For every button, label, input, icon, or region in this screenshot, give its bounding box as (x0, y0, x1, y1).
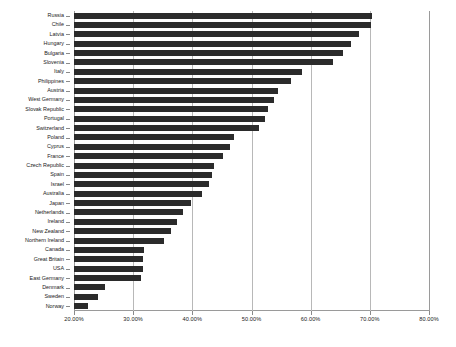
bar-sweden (74, 294, 98, 300)
bar-row (74, 133, 429, 143)
y-label-spain: Spain (50, 170, 64, 180)
y-axis-tick (66, 81, 70, 82)
y-axis-tick (66, 250, 70, 251)
y-axis-tick (66, 156, 70, 157)
bar-row (74, 30, 429, 40)
bar-czech-republic (74, 163, 214, 169)
bar-row (74, 161, 429, 171)
y-axis-tick (66, 194, 70, 195)
y-label-denmark: Denmark (42, 283, 64, 293)
x-axis-tick (192, 311, 193, 315)
y-label-cyprus: Cyprus (47, 142, 64, 152)
y-axis-tick (66, 222, 70, 223)
y-label-slovenia: Slovenia (43, 58, 64, 68)
y-label-portugal: Portugal (44, 114, 64, 124)
bar-usa (74, 266, 143, 272)
bar-france (74, 153, 223, 159)
bar-row (74, 152, 429, 162)
bar-row (74, 208, 429, 218)
bar-row (74, 67, 429, 77)
y-label-usa: USA (53, 264, 64, 274)
y-label-sweden: Sweden (45, 292, 64, 302)
y-label-poland: Poland (47, 133, 64, 143)
bar-switzerland (74, 125, 259, 131)
bar-slovak-republic (74, 106, 268, 112)
bar-row (74, 105, 429, 115)
bar-austria (74, 88, 278, 94)
bar-russia (74, 13, 372, 19)
y-axis-tick (66, 297, 70, 298)
y-axis-tick (66, 269, 70, 270)
y-label-austria: Austria (47, 86, 64, 96)
y-label-israel: Israel (51, 180, 64, 190)
bar-philippines (74, 78, 291, 84)
bar-bulgaria (74, 50, 343, 56)
bar-row (74, 189, 429, 199)
bar-israel (74, 181, 209, 187)
bar-row (74, 39, 429, 49)
bar-latvia (74, 31, 359, 37)
bar-row (74, 245, 429, 255)
x-axis-tick (252, 311, 253, 315)
y-axis-tick (66, 53, 70, 54)
x-axis-tick (133, 311, 134, 315)
bar-west-germany (74, 97, 274, 103)
bar-rows (74, 11, 429, 311)
y-axis-category-labels: RussiaChileLatviaHungaryBulgariaSlovenia… (0, 11, 70, 311)
bar-row (74, 199, 429, 209)
bar-row (74, 142, 429, 152)
y-label-canada: Canada (45, 245, 64, 255)
y-label-japan: Japan (49, 199, 64, 209)
y-axis-tick (66, 184, 70, 185)
bar-portugal (74, 116, 265, 122)
y-label-northern-ireland: Northern Ireland (25, 236, 64, 246)
y-axis-tick (66, 44, 70, 45)
bar-northern-ireland (74, 238, 164, 244)
y-axis-tick (66, 128, 70, 129)
y-axis-tick (66, 109, 70, 110)
bar-row (74, 236, 429, 246)
y-label-russia: Russia (48, 11, 64, 21)
y-axis-tick (66, 91, 70, 92)
y-axis-tick (66, 306, 70, 307)
bar-row (74, 124, 429, 134)
bar-netherlands (74, 209, 183, 215)
bar-row (74, 49, 429, 59)
bar-cyprus (74, 144, 230, 150)
bar-row (74, 86, 429, 96)
x-axis-tick (429, 311, 430, 315)
bar-australia (74, 191, 202, 197)
bar-hungary (74, 41, 351, 47)
y-axis-tick (66, 63, 70, 64)
bar-row (74, 283, 429, 293)
bar-slovenia (74, 59, 333, 65)
y-axis-tick (66, 147, 70, 148)
y-axis-tick (66, 16, 70, 17)
bar-japan (74, 200, 191, 206)
bar-italy (74, 69, 302, 75)
x-label-8000: 80.00% (419, 316, 439, 322)
bar-row (74, 255, 429, 265)
bar-row (74, 114, 429, 124)
bar-row (74, 20, 429, 30)
y-label-west-germany: West Germany (28, 95, 64, 105)
y-label-norway: Norway (46, 302, 64, 312)
x-label-7000: 70.00% (360, 316, 380, 322)
bar-chile (74, 22, 371, 28)
y-axis-tick (66, 25, 70, 26)
plot-area (74, 11, 429, 311)
y-axis-tick (66, 72, 70, 73)
y-label-hungary: Hungary (44, 39, 64, 49)
y-label-great-britain: Great Britain (34, 255, 64, 265)
y-label-netherlands: Netherlands (35, 208, 64, 218)
bar-row (74, 58, 429, 68)
bar-row (74, 77, 429, 87)
y-label-new-zealand: New Zealand (32, 227, 64, 237)
x-label-6000: 60.00% (301, 316, 321, 322)
y-label-ireland: Ireland (48, 217, 64, 227)
y-axis-tick (66, 166, 70, 167)
y-axis-tick (66, 175, 70, 176)
bar-row (74, 11, 429, 21)
bar-row (74, 274, 429, 284)
bar-new-zealand (74, 228, 171, 234)
